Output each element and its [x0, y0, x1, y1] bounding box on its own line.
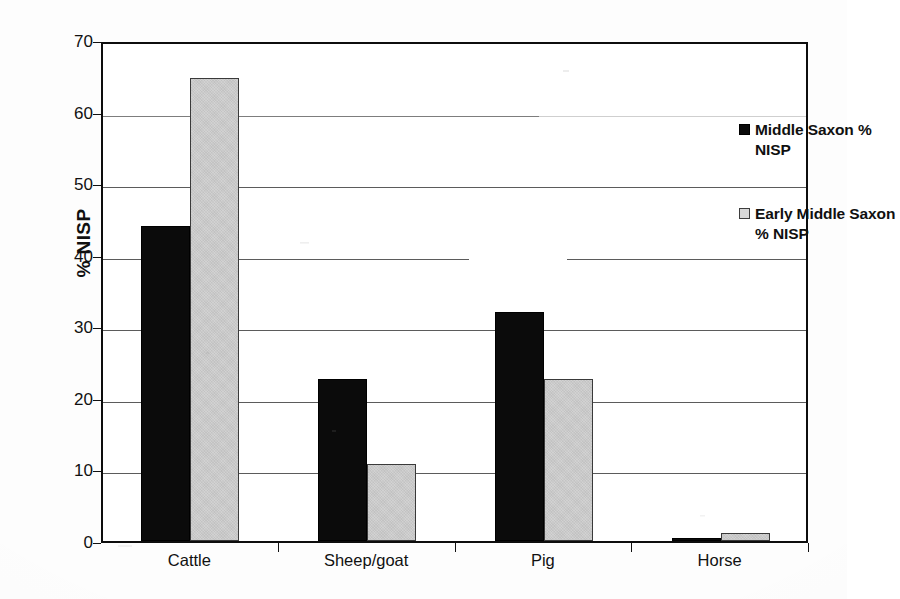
y-axis-tick-label: 30: [47, 318, 93, 338]
x-axis-tick-mark: [455, 543, 456, 552]
y-axis-tick-label: 10: [47, 461, 93, 481]
y-axis-tick-mark: [93, 471, 101, 472]
x-axis-tick-label: Cattle: [168, 551, 211, 570]
legend-entry-label: Early Middle Saxon % NISP: [755, 204, 900, 244]
bar-group: [141, 44, 239, 541]
bar-group: [495, 44, 593, 541]
legend-entry-label: Middle Saxon % NISP: [755, 120, 900, 160]
bar[interactable]: [721, 533, 770, 541]
bar[interactable]: [190, 78, 239, 541]
y-axis-tick-mark: [93, 114, 101, 115]
x-axis-tick-label: Sheep/goat: [324, 551, 408, 570]
y-axis-tick-mark: [93, 543, 101, 544]
y-axis-tick-label: 0: [47, 533, 93, 553]
bar[interactable]: [495, 312, 544, 541]
bar-group: [318, 44, 416, 541]
x-axis-tick-label: Horse: [698, 551, 742, 570]
bar[interactable]: [672, 538, 721, 541]
y-axis-ticks: 010203040506070: [0, 0, 101, 599]
x-axis-labels: CattleSheep/goatPigHorse: [101, 551, 808, 581]
bar[interactable]: [318, 379, 367, 541]
y-axis-tick-mark: [93, 400, 101, 401]
legend-entry-early-middle-saxon[interactable]: Early Middle Saxon % NISP: [739, 204, 900, 244]
y-axis-tick-mark: [93, 328, 101, 329]
y-axis-tick-label: 70: [47, 32, 93, 52]
x-axis-tick-mark: [808, 543, 809, 552]
y-axis-tick-label: 50: [47, 175, 93, 195]
x-axis-tick-mark: [631, 543, 632, 552]
bar[interactable]: [367, 464, 416, 541]
y-axis-tick-label: 40: [47, 247, 93, 267]
x-axis-tick-label: Pig: [531, 551, 555, 570]
y-axis-tick-label: 20: [47, 390, 93, 410]
y-axis-tick-mark: [93, 257, 101, 258]
chart-legend: Middle Saxon % NISP Early Middle Saxon %…: [739, 120, 900, 288]
bar[interactable]: [544, 379, 593, 541]
y-axis-tick-mark: [93, 42, 101, 43]
legend-swatch-square-icon: [739, 124, 750, 135]
x-axis-tick-mark: [278, 543, 279, 552]
bar[interactable]: [141, 226, 190, 541]
y-axis-tick-label: 60: [47, 104, 93, 124]
legend-swatch-square-icon: [739, 208, 750, 219]
legend-entry-middle-saxon[interactable]: Middle Saxon % NISP: [739, 120, 900, 160]
y-axis-tick-mark: [93, 185, 101, 186]
plot-area: Middle Saxon % NISP Early Middle Saxon %…: [101, 42, 808, 543]
bar-group: [672, 44, 770, 541]
